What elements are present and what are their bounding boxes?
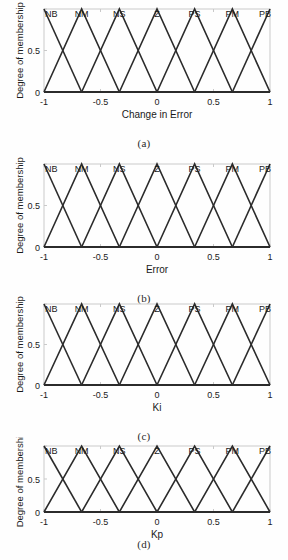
mf-curve-pm xyxy=(195,9,270,92)
mf-curve-ps xyxy=(157,9,232,92)
fuzzy-term-label-ps: PS xyxy=(189,164,201,174)
fuzzy-term-label-pb: PB xyxy=(259,164,271,174)
fuzzy-term-label-nb: NB xyxy=(45,9,58,19)
x-tick-label: -1 xyxy=(40,517,48,527)
fuzzy-term-label-nb: NB xyxy=(45,164,58,174)
x-tick-label: 1 xyxy=(267,517,272,527)
y-tick-label: 0 xyxy=(35,243,40,253)
mf-curve-z xyxy=(119,164,194,247)
x-tick-label: -0.5 xyxy=(93,390,109,400)
panel-error: -1-0.500.5100.5ErrorDegree of membership… xyxy=(0,155,288,291)
x-tick-label: 1 xyxy=(267,97,272,107)
x-axis-label: Change in Error xyxy=(122,109,193,120)
caption-a: (a) xyxy=(0,137,288,149)
panel-change-in-error: -1-0.500.5100.5Change in ErrorDegree of … xyxy=(0,0,288,136)
mf-curve-ns xyxy=(82,304,157,385)
fuzzy-term-label-nm: NM xyxy=(75,304,89,314)
y-tick-label: 0 xyxy=(35,88,40,98)
y-tick-label: 0 xyxy=(35,508,40,518)
x-tick-label: 0.5 xyxy=(207,97,220,107)
fuzzy-term-label-ps: PS xyxy=(189,304,201,314)
mf-curve-ps xyxy=(157,164,232,247)
mf-curve-z xyxy=(119,9,194,92)
mf-curve-ps xyxy=(157,304,232,385)
x-tick-label: -1 xyxy=(40,252,48,262)
x-tick-label: 0.5 xyxy=(207,517,220,527)
fuzzy-term-label-pb: PB xyxy=(259,304,271,314)
x-axis-label: Ki xyxy=(153,402,162,413)
x-tick-label: 0.5 xyxy=(207,390,220,400)
x-tick-label: 0 xyxy=(154,517,159,527)
fuzzy-term-label-nb: NB xyxy=(45,446,58,456)
fuzzy-term-label-pm: PM xyxy=(226,164,240,174)
fuzzy-term-label-pm: PM xyxy=(226,304,240,314)
caption-d: (d) xyxy=(0,538,288,550)
axes-frame xyxy=(44,164,270,247)
fuzzy-term-label-ns: NS xyxy=(113,164,126,174)
x-tick-label: -0.5 xyxy=(93,517,109,527)
x-tick-label: 0.5 xyxy=(207,252,220,262)
y-tick-label: 0.5 xyxy=(27,475,40,485)
fuzzy-term-label-ns: NS xyxy=(113,9,126,19)
fuzzy-term-label-nm: NM xyxy=(75,446,89,456)
y-tick-label: 0.5 xyxy=(27,46,40,56)
x-tick-label: 1 xyxy=(267,390,272,400)
axes-frame xyxy=(44,9,270,92)
x-axis-label: Error xyxy=(146,264,169,275)
fuzzy-term-label-ns: NS xyxy=(113,304,126,314)
y-axis-label: Degree of membership xyxy=(14,157,25,254)
x-tick-label: 0 xyxy=(154,97,159,107)
mf-curve-nm xyxy=(44,164,119,247)
x-tick-label: -1 xyxy=(40,390,48,400)
y-axis-label: Degree of membership xyxy=(14,2,25,99)
fuzzy-term-label-pm: PM xyxy=(226,446,240,456)
fuzzy-term-label-nb: NB xyxy=(45,304,58,314)
y-axis-label: Degree of membership xyxy=(14,437,25,527)
fuzzy-term-label-pb: PB xyxy=(259,446,271,456)
plot-b: -1-0.500.5100.5ErrorDegree of membership… xyxy=(0,155,288,291)
fuzzy-term-label-z: Z xyxy=(154,164,160,174)
axes-frame xyxy=(44,304,270,385)
fuzzy-term-label-ns: NS xyxy=(113,446,126,456)
x-tick-label: -0.5 xyxy=(93,252,109,262)
x-tick-label: -1 xyxy=(40,97,48,107)
mf-curve-ns xyxy=(82,9,157,92)
membership-functions-figure: -1-0.500.5100.5Change in ErrorDegree of … xyxy=(0,0,288,560)
mf-curve-nm xyxy=(44,304,119,385)
fuzzy-term-label-z: Z xyxy=(154,9,160,19)
mf-curve-pm xyxy=(195,164,270,247)
mf-curve-ns xyxy=(82,164,157,247)
y-tick-label: 0.5 xyxy=(27,201,40,211)
x-tick-label: 1 xyxy=(267,252,272,262)
x-tick-label: -0.5 xyxy=(93,97,109,107)
x-tick-label: 0 xyxy=(154,252,159,262)
plot-c: -1-0.500.5100.5KiDegree of membershipNBN… xyxy=(0,295,288,429)
fuzzy-term-label-ps: PS xyxy=(189,9,201,19)
fuzzy-term-label-nm: NM xyxy=(75,164,89,174)
fuzzy-term-label-z: Z xyxy=(154,304,160,314)
x-tick-label: 0 xyxy=(154,390,159,400)
mf-curve-z xyxy=(119,304,194,385)
fuzzy-term-label-nm: NM xyxy=(75,9,89,19)
y-tick-label: 0.5 xyxy=(27,340,40,350)
y-axis-label: Degree of membership xyxy=(14,296,25,393)
fuzzy-term-label-pm: PM xyxy=(226,9,240,19)
fuzzy-term-label-z: Z xyxy=(154,446,160,456)
fuzzy-term-label-ps: PS xyxy=(189,446,201,456)
mf-curve-pm xyxy=(195,304,270,385)
fuzzy-term-label-pb: PB xyxy=(259,9,271,19)
plot-a: -1-0.500.5100.5Change in ErrorDegree of … xyxy=(0,0,288,136)
panel-ki: -1-0.500.5100.5KiDegree of membershipNBN… xyxy=(0,295,288,429)
mf-curve-nm xyxy=(44,9,119,92)
y-tick-label: 0 xyxy=(35,381,40,391)
